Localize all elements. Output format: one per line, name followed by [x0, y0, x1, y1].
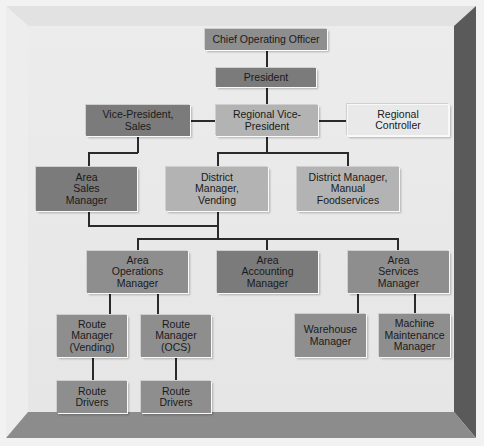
- connector: [190, 120, 216, 122]
- connector: [266, 87, 268, 105]
- node-route-drivers-ocs: Route Drivers: [141, 381, 211, 413]
- node-regional-vice-president: Regional Vice- President: [216, 105, 318, 136]
- node-chief-operating-officer: Chief Operating Officer: [205, 29, 327, 50]
- node-area-operations-manager: Area Operations Manager: [87, 251, 188, 293]
- connector: [88, 225, 218, 227]
- connector: [137, 136, 139, 153]
- connector: [157, 293, 159, 315]
- connector: [347, 152, 349, 167]
- connector: [137, 238, 139, 251]
- connector: [88, 152, 90, 167]
- connector: [92, 357, 94, 381]
- node-warehouse-manager: Warehouse Manager: [295, 314, 366, 357]
- node-route-drivers-vending: Route Drivers: [57, 381, 127, 413]
- connector: [88, 211, 90, 226]
- connector: [217, 211, 219, 239]
- connector: [266, 136, 268, 152]
- node-route-manager-vending: Route Manager (Vending): [57, 315, 127, 357]
- node-district-manager-manual-foodservices: District Manager, Manual Foodservices: [297, 167, 399, 211]
- connector: [175, 357, 177, 381]
- connector: [414, 293, 416, 314]
- connector: [109, 293, 111, 315]
- node-president: President: [216, 68, 316, 87]
- connector: [217, 152, 219, 167]
- connector: [217, 152, 348, 154]
- node-machine-maintenance-manager: Machine Maintenance Manager: [379, 314, 450, 357]
- node-district-manager-vending: District Manager, Vending: [166, 167, 268, 211]
- connector: [266, 238, 268, 251]
- connector: [397, 238, 399, 251]
- connector: [318, 120, 347, 122]
- connector: [137, 238, 398, 240]
- connector: [88, 152, 138, 154]
- node-regional-controller: Regional Controller: [347, 104, 449, 136]
- connector: [357, 293, 359, 314]
- node-route-manager-ocs: Route Manager (OCS): [141, 315, 211, 357]
- connector: [266, 50, 268, 68]
- node-vice-president-sales: Vice-President, Sales: [86, 105, 190, 136]
- node-area-sales-manager: Area Sales Manager: [36, 167, 137, 211]
- node-area-accounting-manager: Area Accounting Manager: [217, 251, 318, 293]
- node-area-services-manager: Area Services Manager: [348, 251, 449, 293]
